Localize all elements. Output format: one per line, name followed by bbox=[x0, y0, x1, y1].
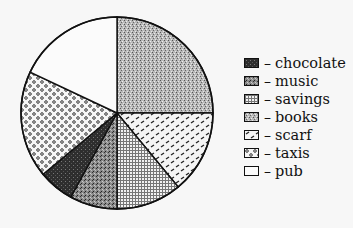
swatch-dark-icon bbox=[244, 58, 259, 68]
legend-label: chocolate bbox=[275, 54, 346, 72]
legend-label: music bbox=[275, 72, 318, 90]
pie-chart bbox=[0, 0, 240, 228]
legend-dash: – bbox=[264, 145, 271, 161]
swatch-crosshatch-icon bbox=[244, 94, 259, 104]
legend-dash: – bbox=[264, 163, 271, 179]
legend: – chocolate – music – savings – books – … bbox=[244, 54, 346, 180]
legend-item-music: – music bbox=[244, 72, 346, 90]
legend-item-savings: – savings bbox=[244, 90, 346, 108]
legend-dash: – bbox=[264, 109, 271, 125]
legend-item-pub: – pub bbox=[244, 162, 346, 180]
legend-label: taxis bbox=[275, 144, 310, 162]
legend-item-scarf: – scarf bbox=[244, 126, 346, 144]
legend-dash: – bbox=[264, 91, 271, 107]
swatch-stipple-dark-icon bbox=[244, 76, 259, 86]
legend-item-taxis: – taxis bbox=[244, 144, 346, 162]
legend-label: savings bbox=[275, 90, 330, 108]
swatch-circles-icon bbox=[244, 148, 259, 158]
swatch-stipple-light-icon bbox=[244, 112, 259, 122]
pie-slice-books bbox=[117, 17, 213, 113]
legend-item-books: – books bbox=[244, 108, 346, 126]
swatch-blank-icon bbox=[244, 166, 259, 176]
swatch-dashes-icon bbox=[244, 130, 259, 140]
legend-label: books bbox=[275, 108, 318, 126]
legend-dash: – bbox=[264, 127, 271, 143]
legend-label: pub bbox=[275, 162, 303, 180]
legend-dash: – bbox=[264, 73, 271, 89]
legend-label: scarf bbox=[275, 126, 312, 144]
legend-item-chocolate: – chocolate bbox=[244, 54, 346, 72]
legend-dash: – bbox=[264, 55, 271, 71]
pie-slices bbox=[21, 17, 213, 209]
